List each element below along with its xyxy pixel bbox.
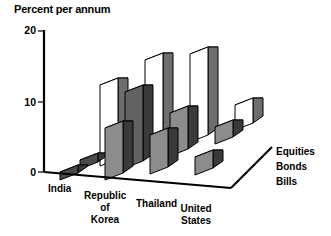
- x-axis-line: [44, 172, 231, 188]
- category-label-korea-line3: Korea: [91, 214, 120, 225]
- x-axis-category-labels: India Republic of Korea Thailand United …: [48, 183, 212, 226]
- chart-container: Percent per annum 20 10 0: [0, 0, 331, 236]
- category-label-unitedstates-line2: States: [181, 215, 211, 226]
- y-tick-label-0: 0: [30, 166, 36, 178]
- category-label-thailand: Thailand: [136, 198, 177, 209]
- category-label-korea-line2: of: [100, 202, 110, 213]
- bar-thailand-bills: [150, 128, 178, 174]
- category-label-unitedstates-line1: United: [180, 203, 211, 214]
- series-label-bonds: Bonds: [276, 161, 308, 172]
- bar-unitedstates-bonds: [215, 120, 243, 144]
- bar-unitedstates-bills: [195, 150, 223, 175]
- depth-axis-line: [231, 147, 272, 188]
- series-label-equities: Equities: [276, 146, 315, 157]
- y-tick-label-20: 20: [24, 24, 36, 36]
- y-axis-ticks: 20 10 0: [24, 24, 44, 178]
- y-tick-label-10: 10: [24, 96, 36, 108]
- category-label-india: India: [48, 183, 72, 194]
- bar-india-bills: [60, 165, 88, 180]
- category-label-korea-line1: Republic: [84, 190, 127, 201]
- series-label-bills: Bills: [276, 176, 298, 187]
- bar-korea-bills: [105, 121, 133, 180]
- series-depth-labels: Equities Bonds Bills: [276, 146, 315, 187]
- chart-plot-area: 20 10 0: [0, 0, 331, 236]
